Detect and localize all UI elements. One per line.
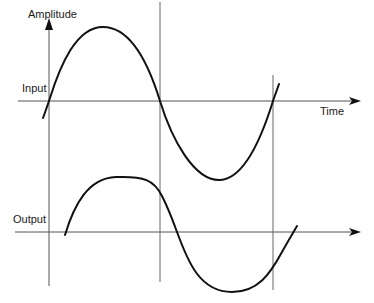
output-label: Output: [13, 214, 46, 225]
waveform-diagram: Amplitude Input Time Output: [0, 0, 374, 303]
diagram-graphics: [0, 0, 374, 303]
input-waveform: [43, 27, 279, 180]
input-label: Input: [22, 83, 46, 94]
amplitude-label: Amplitude: [28, 9, 77, 20]
time-label: Time: [320, 106, 344, 117]
output-waveform: [65, 177, 297, 292]
